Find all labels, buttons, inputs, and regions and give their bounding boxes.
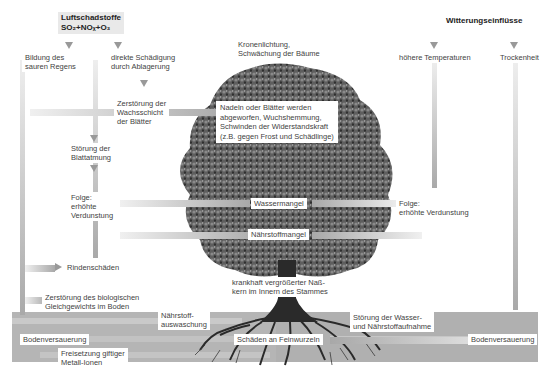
tree-fine-roots [195, 342, 375, 365]
arrow-uptake-to-nutrient [312, 232, 422, 239]
fine-root-damage-label: Schäden an Feinwurzeln [234, 334, 323, 345]
trunk-core-label: krankhaft vergrößerter Naß- kern im Inne… [229, 277, 331, 297]
soil-acidification-left-label: Bodenversauerung [20, 334, 89, 345]
tree-root-base [260, 298, 318, 322]
pollutants-title: Luftschadstoffe [61, 13, 121, 23]
tree-crown [180, 63, 393, 276]
higher-temperature-label: höhere Temperaturen [396, 52, 474, 63]
arrow-down-icon [90, 135, 98, 142]
right-evaporation-label: Folge: erhöhte Verdunstung [396, 198, 472, 218]
needles-effects-box: Nadeln oder Blätter werden abgeworfen, W… [216, 101, 338, 143]
arrow-to-nutrient [120, 232, 250, 239]
nutrient-shortage-label: Nährstoffmangel [248, 229, 309, 240]
drought-label: Trockenheit [497, 52, 542, 63]
weather-title: Witterungseinflüsse [446, 16, 522, 25]
arrow-acid-rain-to-soil [20, 60, 25, 315]
arrow-drought-to-soil [513, 60, 518, 310]
water-shortage-label: Wassermangel [251, 198, 307, 209]
bio-balance-label: Zerstörung des biologischen Gleichgewich… [42, 292, 142, 312]
wax-layer-label: Zerstörung der Wachsschicht der Blätter [114, 98, 169, 127]
uptake-disruption-label: Störung der Wasser- und Nährstoffaufnahm… [350, 312, 434, 332]
arrow-down-icon [430, 42, 438, 49]
direct-damage-label: direkte Schädigung durch Ablagerung [108, 52, 178, 72]
arrow-down-icon [114, 42, 122, 49]
acid-rain-label: Bildung des sauren Regens [22, 52, 79, 72]
arrow-evap-to-water [120, 200, 250, 207]
soil-acidification-right-label: Bodenversauerung [468, 334, 537, 345]
arrow-down-icon [90, 165, 98, 172]
arrow-down-icon [65, 42, 73, 49]
metal-ions-label: Freisetzung giftiger Metall-Ionen [58, 348, 128, 368]
left-evaporation-label: Folge: erhöhte Verdunstung [68, 192, 116, 221]
pollutants-formula: SO₂+NOₓ+O₃ [61, 23, 121, 33]
arrow-to-bark [25, 265, 55, 272]
respiration-label: Störung der Blattatmung [68, 143, 114, 163]
arrow-right-icon [55, 263, 62, 271]
crown-thinning-label: Kronenlichtung, Schwächung der Bäume [238, 40, 320, 58]
arrow-temp-to-evap [432, 60, 437, 188]
arrow-right-evap-to-water [312, 200, 402, 207]
nutrient-leaching-label: Nährstoff- auswaschung [158, 310, 210, 330]
arrow-down-icon [140, 80, 148, 87]
bark-damage-label: Rindenschäden [64, 262, 122, 273]
arrow-down-icon [510, 42, 518, 49]
pollutants-box: Luftschadstoffe SO₂+NOₓ+O₃ [58, 12, 124, 34]
